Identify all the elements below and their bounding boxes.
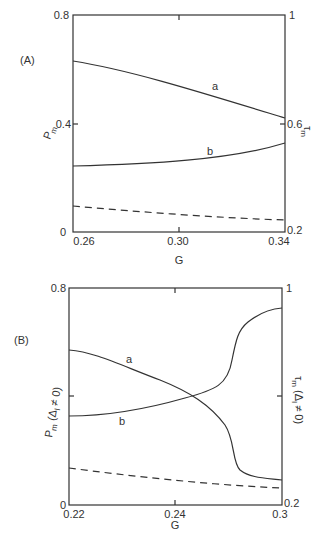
y-right-tick-label: 1: [289, 9, 295, 21]
figure: 0.8 0.4 0 1 0.6 0.2 0.26 0.30 0.34 G Pm …: [0, 0, 321, 545]
y-axis-title: Pm(ΔI≠ 0): [42, 386, 66, 439]
x-axis-title: G: [171, 519, 180, 531]
chart-panel-b: 0.8 0 1 0.2 0.22 0.24 0.3 G Pm(ΔI≠ 0) τm…: [14, 282, 305, 531]
curve-label-b: b: [119, 415, 125, 427]
curve-b: [73, 143, 285, 166]
x-tick-label: 0.22: [63, 508, 84, 520]
y-tick-label: 0.8: [51, 282, 66, 294]
curve-label-a: a: [212, 80, 219, 92]
x-tick-label: 0.3: [272, 508, 287, 520]
y-right-tick-label: 0.6: [287, 118, 302, 130]
svg-text:τm(ΔI≠ 0): τm(ΔI≠ 0): [290, 376, 305, 424]
curve-label-b: b: [207, 145, 213, 157]
curve-b: [69, 308, 282, 416]
y-right-axis-title: τm(ΔI≠ 0): [290, 376, 305, 424]
y-tick-label: 0.8: [54, 9, 69, 21]
x-tick-label: 0.34: [268, 235, 289, 247]
x-tick-label: 0.26: [73, 235, 94, 247]
y-tick-label: 0: [60, 226, 66, 238]
plot-frame-a: [73, 15, 285, 232]
panel-label: (A): [20, 54, 35, 66]
curve-a: [73, 61, 285, 118]
x-tick-label: 0.30: [167, 235, 188, 247]
chart-panel-a: 0.8 0.4 0 1 0.6 0.2 0.26 0.30 0.34 G Pm …: [20, 9, 314, 266]
dashed-curve: [69, 468, 282, 488]
x-axis-title: G: [175, 254, 184, 266]
svg-text:Pm(ΔI≠ 0): Pm(ΔI≠ 0): [42, 386, 66, 439]
y-right-tick-label: 1: [286, 282, 292, 294]
dashed-curve: [73, 206, 285, 220]
curve-label-a: a: [126, 353, 133, 365]
panel-label: (B): [14, 334, 29, 346]
